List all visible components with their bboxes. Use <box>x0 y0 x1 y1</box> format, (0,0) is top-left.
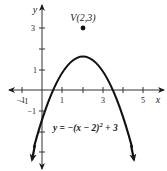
x-tick-label-3: 3 <box>101 96 105 105</box>
parabola-curve <box>34 57 132 148</box>
vertex-point <box>81 26 86 31</box>
y-tick-label-3: 3 <box>31 24 35 33</box>
y-axis-label: y <box>32 4 38 15</box>
left-curve-arrow <box>32 145 35 160</box>
equation-tail: + 3 <box>103 123 118 133</box>
x-axis: −1 1 3 5 x <box>9 87 164 105</box>
right-curve-arrow <box>131 145 134 160</box>
y-tick-label-1: 1 <box>33 66 37 75</box>
x-tick-label-5: 5 <box>141 96 145 105</box>
vertex-label: V(2,3) <box>70 12 96 24</box>
x-tick-label-1: 1 <box>60 96 64 105</box>
y-axis: 3 1 −1 −1 y <box>20 4 45 169</box>
equation-main: y = −(x − 2) <box>52 123 99 134</box>
equation-label: y = −(x − 2)2 + 3 <box>52 121 118 134</box>
y-tick-label-neg1: −1 <box>20 97 29 106</box>
x-axis-label: x <box>155 94 161 105</box>
y-tick-label-neg1-b: −1 <box>27 107 36 116</box>
parabola-graph: −1 1 3 5 x 3 1 −1 −1 y V(2,3) y = −(x − … <box>0 0 167 171</box>
